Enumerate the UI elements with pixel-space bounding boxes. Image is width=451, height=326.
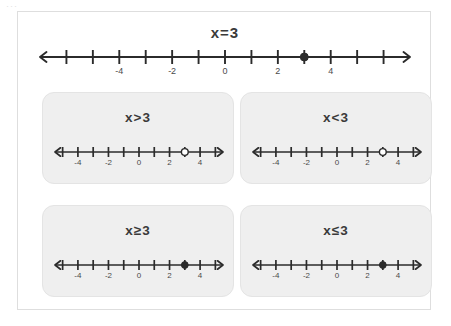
svg-text:2: 2 <box>167 271 172 280</box>
svg-text:0: 0 <box>137 271 142 280</box>
svg-text:-4: -4 <box>272 158 280 167</box>
svg-text:2: 2 <box>365 271 370 280</box>
equation-title: x=3 <box>18 25 432 41</box>
svg-text:0: 0 <box>335 271 340 280</box>
svg-text:-2: -2 <box>168 66 176 76</box>
panel-less-equal[interactable]: x≤3 -4-2024 <box>240 205 432 297</box>
number-line-greater-than: -4-2024 <box>43 141 235 169</box>
worksheet-frame: x=3 -4-2024 x>3 -4-2024 x<3 -4-2024 x≥3 … <box>17 11 431 310</box>
svg-text:4: 4 <box>198 158 203 167</box>
svg-text:-2: -2 <box>303 158 311 167</box>
panel-label-greater-equal: x≥3 <box>43 223 233 238</box>
panel-greater-than[interactable]: x>3 -4-2024 <box>42 92 234 184</box>
panel-label-less-than: x<3 <box>241 110 431 125</box>
number-line-less-than: -4-2024 <box>241 141 433 169</box>
panel-greater-equal[interactable]: x≥3 -4-2024 <box>42 205 234 297</box>
svg-text:0: 0 <box>137 158 142 167</box>
panel-label-greater-than: x>3 <box>43 110 233 125</box>
equation-block: x=3 -4-2024 <box>18 12 432 84</box>
number-line-less-equal: -4-2024 <box>241 254 433 282</box>
svg-text:-2: -2 <box>105 271 113 280</box>
inequality-panel-grid: x>3 -4-2024 x<3 -4-2024 x≥3 -4-2024 x≤3 … <box>26 92 424 302</box>
panel-less-than[interactable]: x<3 -4-2024 <box>240 92 432 184</box>
svg-text:0: 0 <box>222 66 227 76</box>
svg-text:4: 4 <box>396 158 401 167</box>
svg-text:-4: -4 <box>74 158 82 167</box>
svg-text:2: 2 <box>365 158 370 167</box>
svg-text:4: 4 <box>198 271 203 280</box>
svg-text:-4: -4 <box>115 66 123 76</box>
number-line-greater-equal: -4-2024 <box>43 254 235 282</box>
svg-text:-2: -2 <box>303 271 311 280</box>
svg-text:-2: -2 <box>105 158 113 167</box>
svg-text:4: 4 <box>396 271 401 280</box>
svg-text:0: 0 <box>335 158 340 167</box>
svg-text:-4: -4 <box>272 271 280 280</box>
svg-text:2: 2 <box>275 66 280 76</box>
svg-text:-4: -4 <box>74 271 82 280</box>
svg-text:4: 4 <box>328 66 333 76</box>
number-line-equation: -4-2024 <box>18 44 432 78</box>
svg-text:2: 2 <box>167 158 172 167</box>
panel-label-less-equal: x≤3 <box>241 223 431 238</box>
